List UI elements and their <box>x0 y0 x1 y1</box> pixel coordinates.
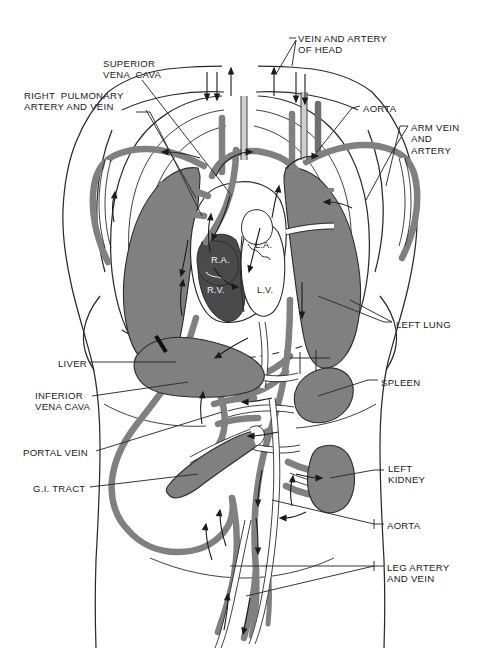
label-arm-vein-and-artery: ARM VEIN AND ARTERY <box>411 122 459 156</box>
label-inferior-vena-cava: INFERIOR VENA CAVA <box>35 390 90 413</box>
iliac-vein-loop <box>128 498 233 552</box>
heart-group <box>191 182 287 323</box>
label-aorta-top: AORTA <box>363 103 396 114</box>
label-liver: LIVER <box>58 358 87 369</box>
arrow-neck-down-2 <box>215 72 220 100</box>
label-spleen: SPLEEN <box>381 377 420 388</box>
label-vein-and-artery-of-head: VEIN AND ARTERY OF HEAD <box>298 33 387 56</box>
arrow-iliac-left <box>280 512 306 521</box>
subclavian-left <box>306 145 416 182</box>
gi-tract-shape <box>166 431 260 498</box>
label-left-ventricle: L.V. <box>257 285 273 295</box>
left-kidney-shape <box>308 445 355 513</box>
label-aorta-bottom: AORTA <box>387 520 420 531</box>
arrow-portal-up <box>200 392 205 424</box>
label-superior-vena-cava: SUPERIOR VENA CAVA <box>103 58 161 81</box>
spleen-shape <box>294 368 353 423</box>
arrow-neck-down-3 <box>294 72 299 102</box>
portal-tributary-b <box>218 418 258 424</box>
diagram-page: SUPERIOR VENA CAVA RIGHT PULMONARY ARTER… <box>0 0 485 652</box>
label-right-atrium: R.A. <box>211 255 230 265</box>
label-gi-tract: G.I. TRACT <box>33 483 85 494</box>
liver-shape <box>134 337 264 397</box>
label-portal-vein: PORTAL VEIN <box>23 447 88 458</box>
label-leg-artery-and-vein: LEG ARTERY AND VEIN <box>387 562 449 585</box>
leader-portal-vein <box>96 412 222 451</box>
label-right-pulmonary-artery-and-vein: RIGHT PULMONARY ARTERY AND VEIN <box>24 90 124 113</box>
arrow-neck-down-1 <box>205 72 210 100</box>
arrow-neck-up-1 <box>229 68 234 96</box>
label-left-atrium: L.A. <box>255 240 272 250</box>
arrow-neck-down-4 <box>303 74 308 104</box>
label-left-lung: LEFT LUNG <box>396 319 451 330</box>
label-left-kidney: LEFT KIDNEY <box>388 463 425 486</box>
label-right-ventricle: R.V. <box>207 285 225 295</box>
